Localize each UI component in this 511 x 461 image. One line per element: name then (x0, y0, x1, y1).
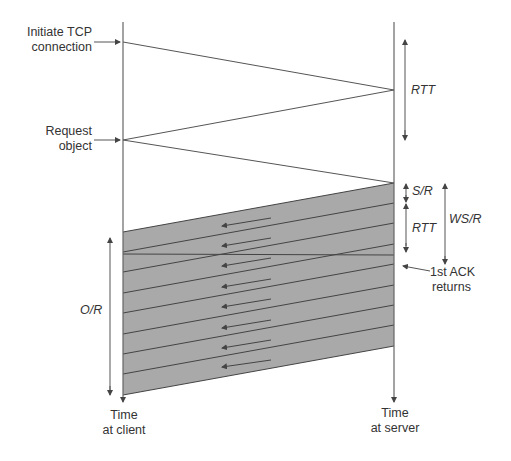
time-client-line2: at client (95, 423, 153, 438)
o-over-r-label: O/R (80, 303, 102, 318)
time-client-line1: Time (95, 408, 153, 423)
time-at-client-label: Time at client (95, 408, 153, 438)
ws-over-r-label: WS/R (449, 212, 482, 227)
time-server-line2: at server (364, 421, 426, 436)
rtt-mid-label: RTT (412, 221, 436, 236)
first-ack-label: 1st ACK returns (430, 265, 475, 295)
initiate-tcp-line2: connection (6, 40, 92, 55)
request-object-line2: object (20, 139, 92, 154)
first-ack-pointer-arrow (403, 266, 430, 271)
request-object-line1: Request (20, 124, 92, 139)
handshake-lines (123, 42, 394, 183)
initiate-tcp-label: Initiate TCP connection (6, 25, 92, 55)
first-ack-line2: returns (430, 280, 475, 295)
first-ack-line1: 1st ACK (430, 265, 475, 280)
time-server-line1: Time (364, 406, 426, 421)
s-over-r-label: S/R (412, 184, 433, 199)
request-object-label: Request object (20, 124, 92, 154)
time-at-server-label: Time at server (364, 406, 426, 436)
rtt-top-label: RTT (411, 83, 435, 98)
initiate-tcp-line1: Initiate TCP (6, 25, 92, 40)
